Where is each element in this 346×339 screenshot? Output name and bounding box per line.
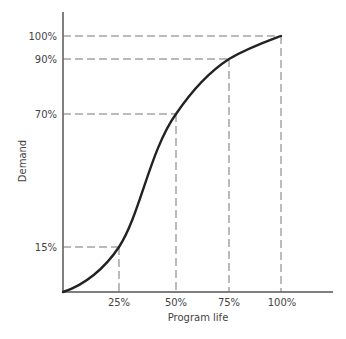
demand-curve: [63, 36, 281, 292]
x-tick-50: 50%: [165, 297, 187, 308]
x-tick-100: 100%: [268, 297, 297, 308]
demand-curve-chart: 100% 90% 70% 15% 25% 50% 75% 100% Progra…: [0, 0, 346, 339]
reference-lines: [63, 36, 281, 292]
y-tick-70: 70%: [35, 109, 57, 120]
y-tick-90: 90%: [35, 54, 57, 65]
x-axis-label: Program life: [168, 312, 229, 323]
x-tick-25: 25%: [108, 297, 130, 308]
y-tick-100: 100%: [28, 31, 57, 42]
x-tick-75: 75%: [218, 297, 240, 308]
y-tick-15: 15%: [35, 242, 57, 253]
y-axis-label: Demand: [17, 140, 28, 182]
